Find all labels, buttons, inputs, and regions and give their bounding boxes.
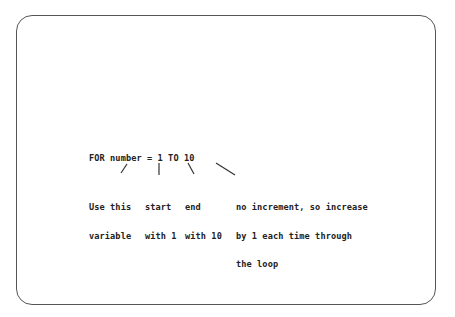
annotation-line: Use this — [89, 203, 131, 213]
annotation-line: the loop — [236, 260, 368, 270]
pointer-increment — [216, 163, 235, 175]
annotation-end: end with 10 — [185, 184, 222, 251]
annotation-variable: Use this variable — [89, 184, 131, 251]
annotation-line: variable — [89, 232, 131, 242]
annotation-increment: no increment, so increase by 1 each time… — [236, 184, 368, 279]
annotation-line: start — [145, 203, 177, 213]
annotation-start: start with 1 — [145, 184, 177, 251]
annotation-line: by 1 each time through — [236, 232, 368, 242]
pointer-variable — [121, 164, 127, 173]
pointer-end — [188, 163, 194, 174]
pointer-lines — [0, 0, 455, 317]
annotation-line: with 1 — [145, 232, 177, 242]
annotation-line: end — [185, 203, 222, 213]
annotation-line: no increment, so increase — [236, 203, 368, 213]
annotation-line: with 10 — [185, 232, 222, 242]
